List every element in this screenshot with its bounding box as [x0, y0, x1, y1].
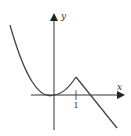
- x-axis-arrow-icon: [117, 91, 125, 99]
- x-tick-label-1: 1: [74, 101, 79, 110]
- parabola-segment: [10, 25, 76, 96]
- function-graph: y x 1: [0, 0, 131, 136]
- x-axis-label: x: [117, 82, 122, 92]
- y-axis-label: y: [60, 11, 67, 21]
- y-axis-arrow-icon: [50, 13, 58, 21]
- linear-segment: [76, 77, 117, 128]
